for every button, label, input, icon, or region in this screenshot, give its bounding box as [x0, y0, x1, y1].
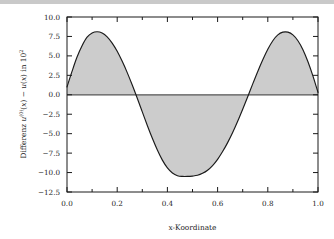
chart-canvas: 0.00.20.40.60.81.0 10.07.55.02.50.0−2.5−… [0, 0, 334, 239]
y-tick-label: −7.5 [43, 149, 61, 158]
y-tick-label: 10.0 [44, 13, 60, 22]
x-tick-label: 1.0 [312, 199, 324, 208]
y-axis-tick-labels: 10.07.55.02.50.0−2.5−5.0−7.5−10.0−12.5 [38, 13, 60, 197]
y-tick-label: 5.0 [49, 51, 61, 60]
y-tick-label: 0.0 [49, 90, 61, 99]
y-tick-label: −12.5 [38, 188, 60, 197]
x-tick-label: 0.0 [61, 199, 73, 208]
y-tick-label: −2.5 [43, 110, 61, 119]
y-tick-label: 7.5 [49, 32, 61, 41]
x-axis-title: x-Koordinate [169, 223, 217, 232]
x-axis-tick-labels: 0.00.20.40.60.81.0 [61, 199, 324, 208]
y-axis-title-group: Differenz u(0)(x) − u(x) in 102 [18, 50, 28, 159]
y-tick-label: 2.5 [49, 71, 61, 80]
x-axis-title-group: x-Koordinate [169, 223, 217, 232]
x-tick-label: 0.8 [262, 199, 274, 208]
x-tick-label: 0.4 [162, 199, 174, 208]
y-tick-label: −10.0 [38, 168, 60, 177]
y-tick-label: −5.0 [43, 129, 61, 138]
y-axis-title: Differenz u(0)(x) − u(x) in 102 [18, 50, 28, 159]
figure-container: 0.00.20.40.60.81.0 10.07.55.02.50.0−2.5−… [0, 0, 334, 239]
x-tick-label: 0.6 [212, 199, 224, 208]
area-fill [67, 32, 318, 177]
x-tick-label: 0.2 [111, 199, 122, 208]
